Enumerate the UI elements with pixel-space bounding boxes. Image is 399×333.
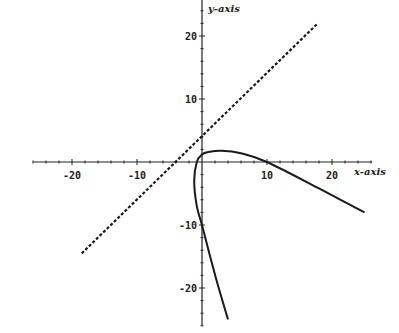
y-tick-label: 10 — [185, 94, 197, 105]
x-tick-label: 10 — [261, 170, 273, 181]
curve-series — [194, 151, 364, 320]
chart: -20-1010202010-10-20 x-axis y-axis — [0, 0, 399, 333]
y-tick-label: 20 — [185, 31, 197, 42]
x-tick-label: -10 — [128, 170, 146, 181]
series — [82, 23, 365, 319]
x-axis-label: x-axis — [353, 166, 386, 177]
y-axis-label: y-axis — [207, 3, 240, 14]
x-tick-label: 20 — [326, 170, 338, 181]
y-tick-label: -20 — [179, 283, 197, 294]
y-tick-label: -10 — [179, 220, 197, 231]
x-tick-label: -20 — [63, 170, 81, 181]
